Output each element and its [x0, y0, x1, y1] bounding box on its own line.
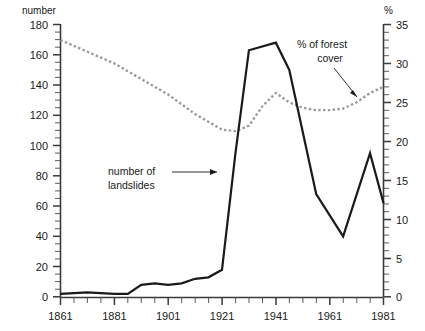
x-axis-ticks: [61, 298, 384, 305]
annotation-landslides: number of landslides: [108, 165, 217, 191]
right-axis-ticks: [384, 25, 391, 297]
right-tick-label-5: 5: [396, 253, 402, 265]
x-tick-label-1881: 1881: [102, 310, 126, 322]
x-tick-label-1961: 1961: [318, 310, 342, 322]
x-axis: 1861 1881 1901 1921 1941 1961 1981: [48, 298, 395, 323]
right-tick-label-20: 20: [396, 136, 408, 148]
x-tick-label-1901: 1901: [156, 310, 180, 322]
left-tick-label-160: 160: [30, 49, 48, 61]
left-tick-label-180: 180: [30, 19, 48, 31]
right-tick-label-30: 30: [396, 58, 408, 70]
right-tick-label-0: 0: [396, 291, 402, 303]
chart-container: number 180 160 140 120 100 80 60 40 20 0: [0, 0, 425, 331]
left-tick-label-60: 60: [36, 200, 48, 212]
left-tick-label-100: 100: [30, 140, 48, 152]
chart-svg: number 180 160 140 120 100 80 60 40 20 0: [0, 0, 425, 331]
x-tick-label-1861: 1861: [48, 310, 72, 322]
x-tick-label-1921: 1921: [210, 310, 234, 322]
forest-annot-arrowhead: [350, 90, 357, 97]
forest-annot-line1: % of forest: [297, 38, 347, 50]
annotation-forest-cover: % of forest cover: [297, 38, 357, 97]
right-axis-title: %: [384, 5, 393, 16]
left-tick-label-80: 80: [36, 170, 48, 182]
right-axis: % 35 30 25 20 15 10 5 0: [384, 5, 409, 303]
landslides-annot-arrowhead: [210, 169, 217, 175]
x-tick-label-1981: 1981: [371, 310, 395, 322]
right-tick-label-15: 15: [396, 175, 408, 187]
left-tick-label-120: 120: [30, 109, 48, 121]
landslides-annot-line2: landslides: [108, 179, 155, 191]
left-tick-label-0: 0: [42, 291, 48, 303]
left-axis: number 180 160 140 120 100 80 60 40 20 0: [22, 5, 61, 303]
right-tick-label-10: 10: [396, 214, 408, 226]
left-axis-title: number: [22, 5, 57, 16]
left-axis-ticks: [53, 25, 60, 297]
left-tick-label-140: 140: [30, 79, 48, 91]
left-tick-label-20: 20: [36, 261, 48, 273]
x-tick-label-1941: 1941: [264, 310, 288, 322]
forest-annot-line2: cover: [317, 52, 343, 64]
left-tick-label-40: 40: [36, 230, 48, 242]
landslides-annot-line1: number of: [108, 165, 155, 177]
right-tick-label-35: 35: [396, 19, 408, 31]
right-tick-label-25: 25: [396, 97, 408, 109]
